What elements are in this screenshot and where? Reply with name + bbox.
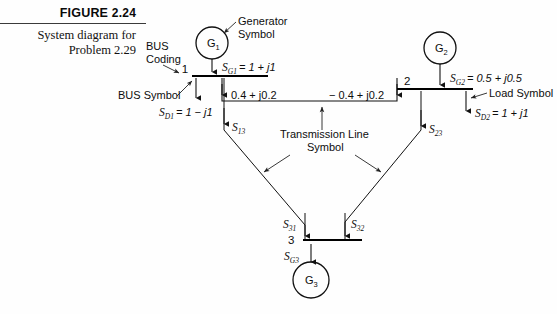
generator-2-group: G2 SG2= 0.5 + j0.5 xyxy=(424,32,523,87)
transmission-line-symbol-text-line-2: Symbol xyxy=(307,141,344,153)
transmission-line-symbol-leader-left xyxy=(264,155,290,172)
bus-coding-text-line-1: BUS xyxy=(146,40,169,52)
bus-coding-text-line-2: Coding xyxy=(146,53,181,65)
s-23-label: S23 xyxy=(429,123,443,138)
bus-coding-leader xyxy=(163,65,179,73)
line-1-3-path xyxy=(224,78,305,240)
flow-1-2-label: 0.4 + j0.2 xyxy=(231,89,277,101)
generator-symbol-leader xyxy=(224,22,236,33)
power-system-one-line-diagram: 1 G1 SG1= 1 + j1 SD1= 1 − j1 0.4 + j0.2 … xyxy=(0,0,557,314)
load-symbol-text: Load Symbol xyxy=(489,87,553,99)
transmission-line-2-3: S23 S32 xyxy=(345,91,443,240)
s-d2-label: SD2= 1 + j1 xyxy=(475,107,529,122)
s-13-label: S13 xyxy=(232,121,246,136)
annotation-generator-symbol: Generator Symbol xyxy=(224,15,288,40)
annotation-bus-symbol: BUS Symbol xyxy=(118,81,192,101)
s-32-label: S32 xyxy=(351,218,365,233)
s-g2-label: SG2= 0.5 + j0.5 xyxy=(450,72,523,87)
bus-1-number: 1 xyxy=(182,63,188,75)
annotation-load-symbol: Load Symbol xyxy=(471,87,553,99)
annotation-bus-coding: BUS Coding xyxy=(146,40,181,73)
s-d1-label: SD1= 1 − j1 xyxy=(159,106,213,121)
s-g3-label: SG3 xyxy=(284,250,299,265)
s-31-label: S31 xyxy=(283,218,296,233)
transmission-line-symbol-text-line-1: Transmission Line xyxy=(280,128,369,140)
bus-3-number: 3 xyxy=(288,234,294,246)
generator-2-label: G2 xyxy=(435,42,448,57)
figure-page: FIGURE 2.24 System diagram for Problem 2… xyxy=(0,0,557,314)
load-symbol-leader xyxy=(471,93,487,98)
flow-2-1-label: − 0.4 + j0.2 xyxy=(329,89,384,101)
transmission-line-1-3: S13 S31 xyxy=(224,78,305,240)
bus-2-number: 2 xyxy=(404,75,410,87)
generator-3-group: G3 SG3 xyxy=(284,244,329,298)
generator-symbol-text-line-2: Symbol xyxy=(238,28,275,40)
bus-3-group: 3 xyxy=(288,234,362,246)
transmission-line-1-2: 0.4 + j0.2 − 0.4 + j0.2 xyxy=(222,78,397,101)
generator-1-label: G1 xyxy=(207,37,220,52)
annotation-transmission-line-symbol: Transmission Line Symbol xyxy=(264,107,381,172)
s-g1-label: SG1= 1 + j1 xyxy=(222,61,276,76)
generator-symbol-text-line-1: Generator xyxy=(238,15,288,27)
bus-symbol-text: BUS Symbol xyxy=(118,89,180,101)
generator-3-label: G3 xyxy=(305,274,318,289)
transmission-line-symbol-leader-right xyxy=(355,155,381,172)
